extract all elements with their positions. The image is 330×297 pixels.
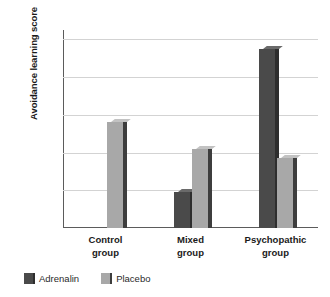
legend-label: Placebo: [116, 273, 150, 284]
bar-face: [277, 158, 293, 228]
bar-adrenalin-psychopathic: [259, 49, 275, 228]
legend-swatch-side: [33, 273, 35, 284]
bar-chart-figure: Avoidance learning score .00.02.04.06.08…: [0, 0, 330, 297]
category-label-line: Psychopathic: [221, 234, 330, 247]
bar-placebo-mixed: [192, 149, 208, 228]
bar-face: [107, 122, 123, 228]
legend-swatch-face: [24, 273, 33, 284]
legend-item-placebo[interactable]: Placebo: [101, 273, 150, 284]
bar-face: [192, 149, 208, 228]
bar-group: [233, 30, 318, 228]
legend-swatch-icon: [101, 273, 110, 284]
bar-side-shadow: [293, 158, 297, 228]
chart-legend: AdrenalinPlacebo: [24, 273, 150, 284]
bar-face: [174, 192, 190, 228]
bar-placebo-psychopathic: [277, 158, 293, 228]
bar-face: [259, 49, 275, 228]
bar-group: [148, 30, 233, 228]
x-axis-category-label: Psychopathicgroup: [221, 234, 330, 259]
plot-area: .00.02.04.06.08.10: [63, 30, 318, 228]
y-axis-title: Avoidance learning score: [28, 0, 39, 149]
legend-swatch-icon: [24, 273, 33, 284]
legend-label: Adrenalin: [39, 273, 79, 284]
legend-swatch-face: [101, 273, 110, 284]
bar-side-shadow: [123, 122, 127, 228]
bar-group: [63, 30, 148, 228]
legend-swatch-side: [110, 273, 112, 284]
bar-placebo-control: [107, 122, 123, 228]
bar-adrenalin-mixed: [174, 192, 190, 228]
legend-item-adrenalin[interactable]: Adrenalin: [24, 273, 79, 284]
category-label-line: group: [221, 247, 330, 260]
bar-side-shadow: [208, 149, 212, 228]
